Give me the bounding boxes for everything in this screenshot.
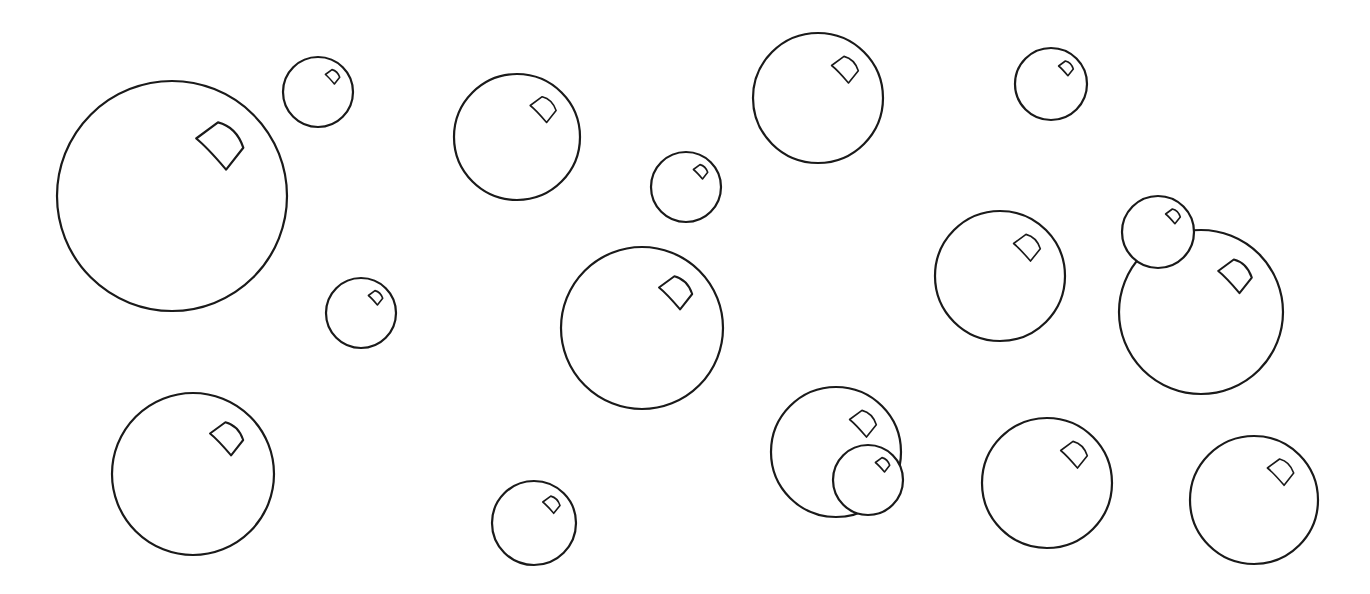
bubble-outline [1122, 196, 1194, 268]
bubble [1190, 436, 1318, 564]
bubble [283, 57, 353, 127]
bubble-outline [651, 152, 721, 222]
bubble [651, 152, 721, 222]
bubbles-illustration [0, 0, 1370, 594]
bubble-outline [561, 247, 723, 409]
bubble-outline [283, 57, 353, 127]
bubble-outline [935, 211, 1065, 341]
bubble [454, 74, 580, 200]
bubble [326, 278, 396, 348]
bubble-outline [1015, 48, 1087, 120]
bubble-outline [326, 278, 396, 348]
bubble [57, 81, 287, 311]
bubble-outline [1190, 436, 1318, 564]
bubble-outline [982, 418, 1112, 548]
bubble-outline [112, 393, 274, 555]
bubble [492, 481, 576, 565]
bubble-outline [492, 481, 576, 565]
bubble [982, 418, 1112, 548]
bubble-outline [753, 33, 883, 163]
bubble-outline [57, 81, 287, 311]
bubble [935, 211, 1065, 341]
bubble [753, 33, 883, 163]
bubble-outline [454, 74, 580, 200]
bubble [561, 247, 723, 409]
bubble [1122, 196, 1194, 268]
bubble [1015, 48, 1087, 120]
bubble-outline [833, 445, 903, 515]
bubble [833, 445, 903, 515]
bubble [112, 393, 274, 555]
